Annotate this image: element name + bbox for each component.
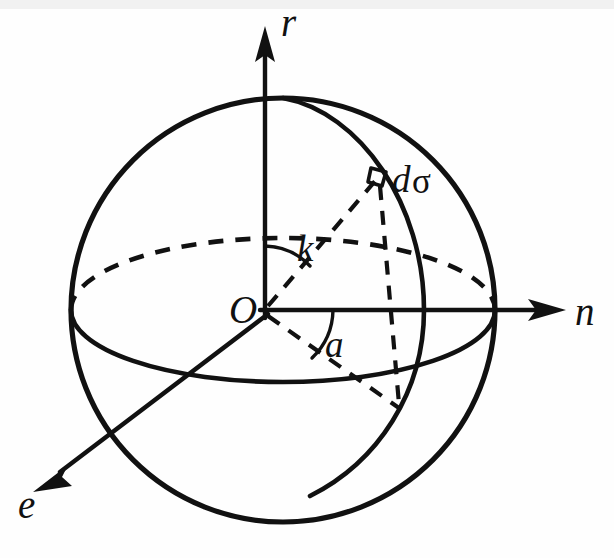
equator-front-solid: [71, 310, 495, 382]
radius-to-patch-dashed: [268, 180, 376, 306]
angle-a-label: a: [325, 324, 344, 365]
meridian-arc: [283, 98, 424, 496]
d-sigma-label-sigma: σ: [412, 162, 431, 201]
d-sigma-patch: [368, 168, 386, 186]
n-axis-label: n: [575, 290, 595, 333]
e-axis-label: e: [18, 483, 35, 526]
angle-k-label: k: [297, 228, 314, 269]
origin-label: O: [229, 288, 257, 331]
e-axis-line: [60, 314, 268, 472]
figure-root: r n e O k a d σ: [0, 0, 614, 558]
d-sigma-label-d: d: [392, 159, 411, 200]
sphere-diagram-canvas: r n e O k a d σ: [0, 0, 614, 558]
r-axis-label: r: [281, 1, 297, 44]
